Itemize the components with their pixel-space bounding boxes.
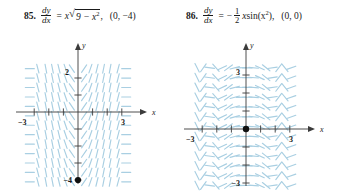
slope-mark: [249, 87, 259, 88]
slope-mark: [282, 64, 288, 71]
slope-mark: [37, 178, 39, 187]
slope-mark: [69, 65, 74, 72]
slope-mark: [96, 64, 98, 73]
slope-mark: [276, 172, 282, 180]
slope-mark: [52, 149, 54, 158]
slope-mark: [117, 149, 119, 158]
slope-mark: [205, 87, 215, 88]
slope-mark: [82, 131, 87, 138]
slope-mark: [37, 111, 39, 120]
slope-mark: [89, 83, 92, 92]
graph-problem-86: x y −3 3 3 −3: [176, 36, 338, 192]
y-axis-label-85: y: [81, 41, 86, 50]
slope-mark: [276, 93, 282, 101]
slope-mark: [109, 121, 111, 130]
slope-mark: [64, 130, 67, 138]
slope-mark: [45, 121, 47, 130]
initial-condition-point-85: [75, 177, 81, 183]
slope-mark: [58, 83, 60, 92]
slope-mark: [58, 121, 60, 130]
x-axis-label-85: x: [151, 108, 156, 117]
x-max-tick-label-85: 3: [121, 118, 125, 127]
slope-mark: [69, 131, 74, 138]
slope-mark: [103, 74, 105, 83]
slope-mark: [52, 102, 54, 111]
slope-mark: [82, 150, 87, 157]
slope-mark: [218, 66, 227, 70]
problem-85-derivative-fraction: dy dx: [41, 6, 52, 25]
slope-mark: [117, 168, 119, 177]
slope-mark: [205, 136, 215, 137]
slope-mark: [276, 84, 282, 92]
slope-mark: [276, 64, 282, 72]
slope-mark: [96, 102, 98, 111]
slope-mark: [218, 76, 227, 80]
slope-mark: [45, 64, 47, 73]
slope-mark: [45, 140, 47, 149]
problem-86-derivative-fraction: dy dx: [203, 6, 214, 25]
slope-mark: [64, 140, 67, 149]
slope-mark: [82, 140, 87, 147]
slope-mark: [249, 185, 259, 186]
slope-mark: [52, 83, 54, 92]
slope-mark: [117, 159, 119, 168]
slope-mark: [195, 132, 199, 141]
slope-mark: [205, 175, 215, 176]
problem-86-fraction-numerator: 1: [234, 7, 240, 16]
slope-mark: [52, 121, 54, 130]
slope-mark: [109, 140, 111, 149]
slope-mark: [69, 140, 74, 147]
slope-mark: [96, 93, 98, 102]
slope-mark: [249, 77, 259, 78]
slope-mark: [117, 121, 119, 130]
problem-86-fraction-denominator: 2: [234, 15, 240, 25]
slope-mark: [82, 84, 87, 91]
slope-mark: [58, 93, 60, 102]
y-axis-arrow-icon: [243, 43, 249, 50]
slope-mark: [89, 74, 92, 82]
slope-mark: [45, 93, 47, 102]
slope-mark: [287, 164, 296, 167]
slope-mark: [52, 74, 54, 83]
problem-86: 86. dy dx = − 1 2 x sin(x2), (0, 0): [186, 6, 302, 25]
slope-mark: [64, 112, 67, 120]
slope-mark: [82, 65, 87, 72]
slope-mark: [37, 130, 39, 139]
slope-mark: [276, 162, 282, 170]
slope-mark: [69, 159, 74, 166]
slope-mark: [37, 74, 39, 83]
slope-mark: [205, 106, 215, 107]
slope-mark: [249, 107, 259, 108]
initial-condition-point-86: [243, 126, 249, 132]
slope-mark: [287, 105, 296, 108]
slope-mark: [218, 85, 227, 89]
slope-mark: [218, 144, 227, 148]
slope-mark: [249, 97, 259, 98]
slope-mark: [109, 168, 111, 177]
problem-85-radical: √ 9 − x2: [69, 9, 100, 23]
slope-mark: [282, 103, 288, 110]
slope-mark: [64, 121, 67, 130]
slope-mark: [82, 74, 87, 81]
slope-mark: [89, 130, 92, 138]
slope-mark: [268, 146, 277, 147]
slope-mark: [45, 159, 47, 168]
slope-mark: [89, 168, 92, 176]
slope-mark: [117, 83, 119, 92]
slope-mark: [58, 102, 60, 111]
slope-mark: [205, 97, 215, 98]
slope-mark: [103, 149, 105, 158]
slope-mark: [282, 182, 288, 189]
slope-mark: [195, 181, 199, 190]
slope-mark: [58, 140, 60, 149]
slope-mark: [96, 83, 98, 92]
slope-mark: [52, 111, 54, 120]
slope-mark: [276, 142, 282, 150]
slope-mark: [52, 130, 54, 139]
slope-mark: [82, 169, 87, 176]
slope-mark: [268, 136, 277, 137]
problem-85-comma: ,: [100, 11, 102, 21]
slope-mark: [52, 177, 54, 186]
slope-mark: [109, 74, 111, 83]
slope-mark: [37, 121, 39, 130]
